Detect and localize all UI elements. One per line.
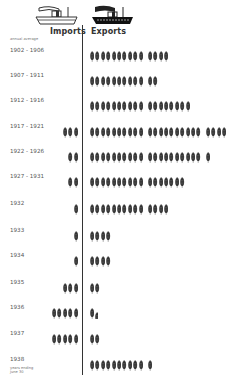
wheat-icon [90, 204, 94, 215]
wheat-icon [117, 51, 121, 62]
wheat-icon [63, 283, 67, 294]
wheat-icon [95, 152, 99, 163]
wheat-icon [95, 76, 99, 87]
wheat-icon [90, 360, 94, 371]
imports-bar [51, 333, 78, 345]
wheat-icon [122, 51, 126, 62]
wheat-icon [95, 283, 99, 294]
wheat-icon [159, 101, 163, 112]
wheat-icon [148, 51, 152, 62]
wheat-icon [153, 101, 157, 112]
row-label: 1936 [10, 304, 24, 310]
wheat-icon [90, 308, 94, 319]
annual-average-note: annual average [10, 37, 38, 41]
wheat-icon [159, 127, 163, 138]
wheat-icon [139, 152, 143, 163]
row-label: 1938 [10, 356, 24, 362]
wheat-icon [153, 204, 157, 215]
wheat-icon [148, 152, 152, 163]
wheat-icon [153, 152, 157, 163]
wheat-icon [95, 101, 99, 112]
wheat-icon [106, 101, 110, 112]
wheat-icon [164, 51, 168, 62]
wheat-icon [74, 256, 78, 267]
wheat-icon [180, 152, 184, 163]
wheat-icon [106, 204, 110, 215]
wheat-icon [175, 127, 179, 138]
wheat-icon [106, 177, 110, 188]
wheat-icon [169, 127, 173, 138]
exports-bar [90, 75, 159, 87]
wheat-icon [186, 127, 190, 138]
wheat-icon [117, 101, 121, 112]
wheat-icon [112, 101, 116, 112]
wheat-icon [128, 51, 132, 62]
wheat-icon [153, 51, 157, 62]
exports-bar [90, 176, 186, 188]
wheat-icon [74, 152, 78, 163]
imports-bar [67, 176, 78, 188]
wheat-icon [153, 127, 157, 138]
ship-filled-icon [91, 4, 135, 26]
wheat-icon [122, 76, 126, 87]
wheat-icon [128, 127, 132, 138]
wheat-icon [133, 51, 137, 62]
wheat-icon [133, 127, 137, 138]
exports-bar [90, 203, 169, 215]
row-label: 1933 [10, 227, 24, 233]
wheat-icon [133, 101, 137, 112]
wheat-icon [139, 101, 143, 112]
wheat-icon [128, 360, 132, 371]
wheat-icon [128, 152, 132, 163]
imports-bar [73, 255, 78, 267]
wheat-icon [68, 177, 72, 188]
exports-bar [90, 126, 227, 138]
wheat-icon [148, 177, 152, 188]
wheat-icon [139, 204, 143, 215]
imports-bar [62, 282, 78, 294]
wheat-icon [217, 127, 221, 138]
wheat-icon [148, 204, 152, 215]
wheat-icon [169, 101, 173, 112]
wheat-icon [68, 127, 72, 138]
wheat-icon [95, 360, 99, 371]
wheat-icon [180, 127, 184, 138]
wheat-icon [196, 152, 200, 163]
wheat-icon [164, 152, 168, 163]
wheat-icon [133, 360, 137, 371]
wheat-icon [186, 152, 190, 163]
wheat-icon [139, 360, 143, 371]
wheat-icon [117, 76, 121, 87]
wheat-icon [112, 76, 116, 87]
wheat-icon [191, 127, 195, 138]
wheat-icon [90, 127, 94, 138]
wheat-icon [106, 256, 110, 267]
wheat-icon [148, 101, 152, 112]
wheat-icon [180, 177, 184, 188]
wheat-icon [95, 256, 99, 267]
exports-bar [90, 307, 99, 319]
wheat-icon [101, 152, 105, 163]
exports-column-header: Exports [91, 27, 126, 36]
wheat-icon [106, 51, 110, 62]
wheat-icon [164, 127, 168, 138]
wheat-icon [106, 76, 110, 87]
wheat-icon [139, 51, 143, 62]
wheat-icon [117, 360, 121, 371]
exports-bar [90, 50, 169, 62]
partial-wheat-icon [95, 308, 97, 319]
exports-bar [90, 151, 211, 163]
wheat-icon [139, 127, 143, 138]
wheat-icon [95, 127, 99, 138]
imports-bar [51, 307, 78, 319]
exports-bar [90, 333, 101, 345]
wheat-icon [95, 204, 99, 215]
wheat-icon [128, 101, 132, 112]
wheat-icon [139, 76, 143, 87]
row-label: 1917 - 1921 [10, 123, 44, 129]
wheat-icon [106, 152, 110, 163]
wheat-icon [101, 177, 105, 188]
column-divider [82, 25, 83, 375]
wheat-icon [139, 177, 143, 188]
wheat-icon [133, 204, 137, 215]
